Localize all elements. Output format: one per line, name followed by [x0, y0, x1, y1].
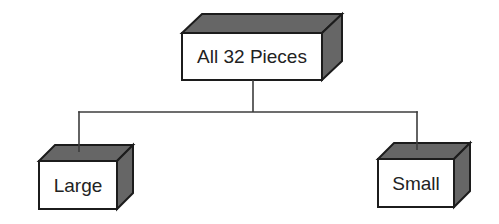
tree-node-root: All 32 Pieces — [182, 14, 342, 80]
tree-node-large: Large — [39, 145, 133, 209]
diagram-canvas: All 32 Pieces Large Small — [0, 0, 499, 224]
hierarchy-diagram: All 32 Pieces Large Small — [0, 0, 499, 224]
tree-connectors — [78, 80, 418, 152]
large-node-label: Large — [54, 175, 103, 196]
small-node-label: Small — [392, 173, 440, 194]
root-box-top-face — [182, 14, 342, 33]
tree-node-small: Small — [378, 143, 470, 207]
root-node-label: All 32 Pieces — [197, 46, 307, 67]
